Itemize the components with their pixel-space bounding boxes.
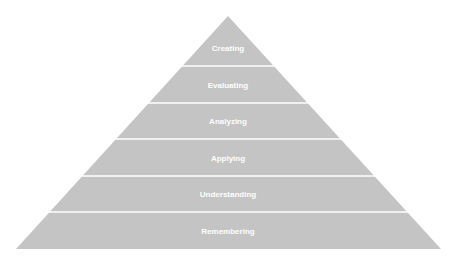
level-label-analyzing: Analyzing (209, 117, 247, 126)
level-label-understanding: Understanding (200, 190, 257, 199)
level-label-creating: Creating (212, 44, 245, 53)
level-label-evaluating: Evaluating (208, 81, 249, 90)
blooms-taxonomy-pyramid: Creating Evaluating Analyzing Applying U… (0, 0, 453, 264)
level-label-applying: Applying (211, 154, 245, 163)
level-label-remembering: Remembering (201, 227, 254, 236)
